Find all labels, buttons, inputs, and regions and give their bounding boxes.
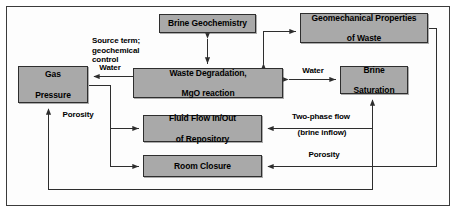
diagram-canvas: Brine Geochemistry Geomechanical Propert… [0,0,458,215]
node-fluid-flow-in-out-of-repository-label: Fluid Flow In/Out of Repository [165,113,240,143]
line-2: MgO reaction [167,88,248,98]
line-1: Brine [351,65,396,75]
edge-label-water-right: Water [296,66,330,76]
node-brine-saturation[interactable]: Brine Saturation [340,66,408,94]
node-fluid-flow-in-out-of-repository[interactable]: Fluid Flow In/Out of Repository [143,115,262,142]
edge-label-two-phase-flow: Two-phase flow [283,112,359,122]
node-waste-degradation-mgo-reaction-label: Waste Degradation, MgO reaction [165,68,250,98]
node-brine-geochemistry[interactable]: Brine Geochemistry [159,14,256,33]
line-2: of Waste [310,33,419,43]
line-2: Pressure [33,90,73,100]
line-1: Waste Degradation, [167,68,248,78]
edge-label-brine-inflow: (brine inflow) [287,128,357,138]
node-geomechanical-properties-of-waste[interactable]: Geomechanical Properties of Waste [300,13,428,43]
node-gas-pressure-label: Gas Pressure [31,69,75,99]
line-1: Source term; [92,36,140,45]
line-2: of Repository [167,134,238,144]
line-1: Fluid Flow In/Out [167,113,238,123]
edge-label-porosity-right: Porosity [302,150,346,160]
node-brine-geochemistry-label: Brine Geochemistry [166,18,249,28]
node-waste-degradation-mgo-reaction[interactable]: Waste Degradation, MgO reaction [133,68,283,98]
node-brine-saturation-label: Brine Saturation [349,65,398,95]
edge-label-source-term-geochemical-control: Source term; geochemical control [92,36,158,65]
node-room-closure-label: Room Closure [172,161,233,171]
edge-label-porosity-left: Porosity [56,110,100,120]
line-2: geochemical [92,46,139,55]
line-2: Saturation [351,85,396,95]
edge-label-water-left: Water [93,63,127,73]
node-gas-pressure[interactable]: Gas Pressure [18,66,88,103]
node-room-closure[interactable]: Room Closure [143,155,262,177]
line-1: Gas [33,69,73,79]
node-geomechanical-properties-of-waste-label: Geomechanical Properties of Waste [308,13,421,43]
line-1: Geomechanical Properties [310,13,419,23]
